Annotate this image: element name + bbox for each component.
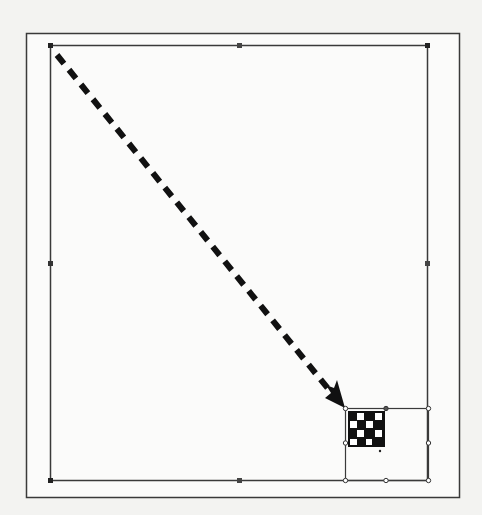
- obj-handle-bottom-left[interactable]: [343, 478, 347, 482]
- handle-top-middle[interactable]: [237, 43, 242, 48]
- checkerboard-icon[interactable]: [348, 411, 385, 452]
- obj-handle-top-left[interactable]: [343, 406, 347, 410]
- obj-handle-bottom-right[interactable]: [426, 478, 430, 482]
- handle-bottom-middle[interactable]: [237, 478, 242, 483]
- outer-frame: [27, 34, 460, 498]
- obj-handle-middle-right[interactable]: [426, 441, 430, 445]
- handle-top-right[interactable]: [425, 43, 430, 48]
- obj-handle-bottom-middle[interactable]: [384, 478, 388, 482]
- obj-handle-top-right[interactable]: [426, 406, 430, 410]
- handle-top-left[interactable]: [48, 43, 53, 48]
- handle-middle-right[interactable]: [425, 261, 430, 266]
- obj-handle-middle-left[interactable]: [343, 441, 347, 445]
- diagram-canvas: [0, 0, 482, 515]
- handle-middle-left[interactable]: [48, 261, 53, 266]
- obj-handle-top-middle[interactable]: [384, 406, 388, 410]
- handle-bottom-left[interactable]: [48, 478, 53, 483]
